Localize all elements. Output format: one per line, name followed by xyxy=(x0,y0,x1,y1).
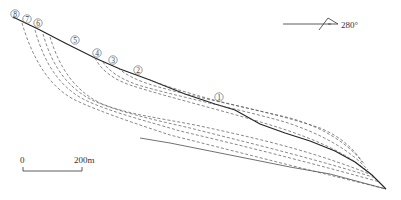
label-surface-2: 2 xyxy=(134,66,142,75)
orientation-label: 280° xyxy=(341,20,359,30)
svg-text:8: 8 xyxy=(13,10,17,19)
slope-diagram: 8 7 6 5 4 3 2 1 280° 0 200m xyxy=(0,0,401,200)
label-surface-8: 8 xyxy=(11,10,19,19)
svg-text:4: 4 xyxy=(95,49,99,58)
ground-surface-line xyxy=(13,17,386,189)
scale-end-label: 200m xyxy=(74,155,95,165)
svg-text:2: 2 xyxy=(136,66,140,75)
svg-text:7: 7 xyxy=(25,15,29,24)
label-surface-5: 5 xyxy=(71,36,79,45)
svg-text:6: 6 xyxy=(36,19,40,28)
label-surface-7: 7 xyxy=(23,15,31,24)
scale-start-label: 0 xyxy=(20,155,25,165)
bedrock-line xyxy=(140,138,386,189)
sliding-surface-5 xyxy=(50,37,372,175)
svg-text:1: 1 xyxy=(217,93,221,102)
svg-text:5: 5 xyxy=(73,36,77,45)
label-surface-3: 3 xyxy=(109,56,117,65)
scale-bar xyxy=(23,167,82,171)
sliding-surface-3 xyxy=(103,62,368,170)
label-surface-4: 4 xyxy=(93,49,101,58)
direction-arrow-icon xyxy=(283,18,338,30)
label-surface-1: 1 xyxy=(215,93,223,102)
svg-text:3: 3 xyxy=(111,56,115,65)
label-surface-6: 6 xyxy=(34,19,42,28)
